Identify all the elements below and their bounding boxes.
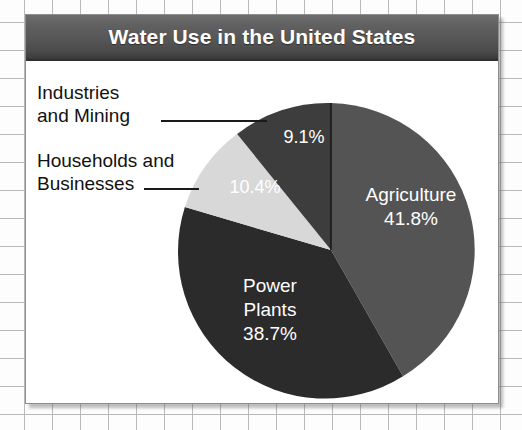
callout-industries-line1: Industries (37, 81, 130, 104)
slice-label-power-plants-line2: Plants (244, 299, 297, 320)
chart-title: Water Use in the United States (109, 25, 416, 49)
slice-label-power-plants-value: 38.7% (243, 323, 297, 344)
pie-chart-plot-area: Agriculture 41.8% Power Plants 38.7% 10.… (26, 61, 499, 403)
callout-industries-line2: and Mining (37, 104, 130, 127)
slice-label-industries-value: 9.1% (283, 127, 324, 147)
leader-line-industries (161, 120, 267, 122)
callout-households-line2: Businesses (37, 172, 174, 195)
chart-title-bar: Water Use in the United States (26, 15, 498, 61)
slice-label-agriculture-name: Agriculture (366, 184, 457, 205)
leader-line-households (144, 188, 199, 190)
slice-label-households-value: 10.4% (229, 177, 280, 197)
callout-label-industries: Industries and Mining (37, 81, 130, 127)
callout-households-line1: Households and (37, 149, 174, 172)
slice-label-power-plants-line1: Power (243, 275, 298, 296)
figure-card: Water Use in the United States Agricultu… (25, 14, 499, 404)
slice-label-agriculture-value: 41.8% (384, 208, 438, 229)
